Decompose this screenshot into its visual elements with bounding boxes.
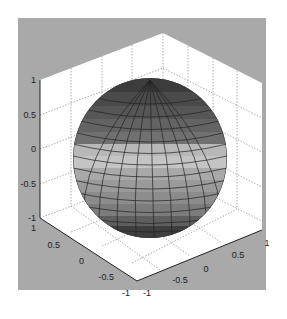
svg-text:-1: -1 bbox=[143, 288, 151, 298]
svg-text:-1: -1 bbox=[28, 213, 36, 223]
svg-text:-0.5: -0.5 bbox=[98, 272, 114, 282]
svg-text:-0.5: -0.5 bbox=[20, 179, 36, 189]
svg-text:-1: -1 bbox=[122, 288, 130, 298]
svg-text:0.5: 0.5 bbox=[47, 240, 60, 250]
svg-text:1: 1 bbox=[31, 223, 36, 233]
svg-text:0.5: 0.5 bbox=[232, 250, 245, 260]
svg-text:1: 1 bbox=[31, 75, 36, 85]
svg-text:0: 0 bbox=[203, 264, 208, 274]
svg-text:1: 1 bbox=[264, 238, 269, 248]
svg-text:0: 0 bbox=[79, 256, 84, 266]
svg-text:0.5: 0.5 bbox=[23, 110, 36, 120]
svg-text:0: 0 bbox=[31, 144, 36, 154]
sphere-surface-figure: 1 0.5 0 -0.5 -1 1 0.5 0 -0.5 -1 -1 -0.5 … bbox=[0, 0, 287, 319]
svg-text:-0.5: -0.5 bbox=[172, 275, 188, 285]
